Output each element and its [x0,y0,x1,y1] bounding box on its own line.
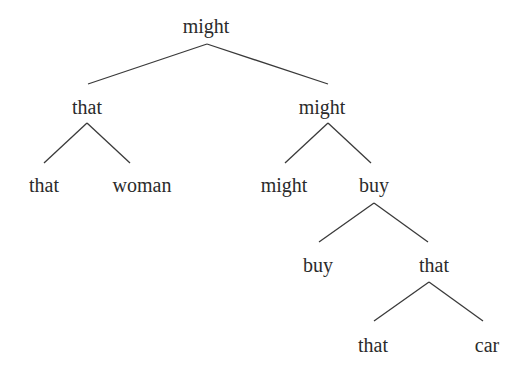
leaf-that: that [29,174,59,196]
leaf-car: car [475,334,499,356]
leaf-that-2: that [358,334,388,356]
edge-buy-buy [319,203,374,242]
leaf-buy: buy [303,254,333,276]
node-might: might [299,96,346,118]
edge-might-buy [328,123,371,163]
edge-buy-that [374,203,428,242]
edge-that-that-2 [374,282,429,321]
edge-might-might [285,123,328,163]
node-that: that [72,96,102,118]
leaf-woman: woman [113,174,172,196]
edge-that-woman [87,123,130,163]
edge-that-that [44,123,87,163]
node-buy: buy [359,174,389,196]
leaf-might: might [261,174,308,196]
edge-root-that [88,44,207,84]
syntax-tree-diagram: might that might that woman might buy bu… [0,0,525,374]
edge-that-car [429,282,483,321]
edge-root-might [207,44,328,84]
node-root-might: might [183,15,230,37]
node-that-2: that [419,254,449,276]
